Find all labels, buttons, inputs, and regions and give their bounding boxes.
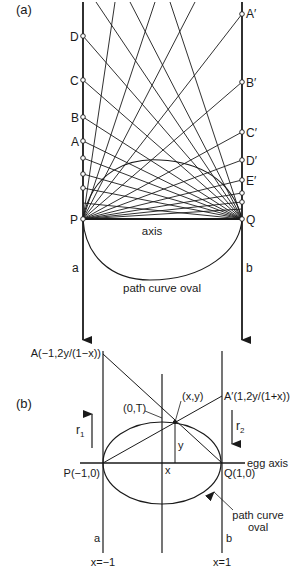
label-xy: (x,y) — [182, 390, 203, 402]
label-b: B — [71, 111, 79, 125]
panel-b-labels: (b) A(−1,2y/(1−x)) A′(1,2y/(1+x)) (0,T) … — [16, 347, 290, 568]
panel-b — [80, 351, 245, 553]
label-a-prime: A′ — [246, 7, 257, 21]
fan-lines-from-p — [83, 2, 242, 219]
label-q-b: Q(1,0) — [224, 467, 255, 479]
panel-b-tag: (b) — [16, 396, 32, 411]
label-y: y — [178, 439, 184, 451]
label-0t: (0,T) — [123, 402, 146, 414]
label-q: Q — [246, 213, 255, 227]
line-a-label: a — [72, 261, 79, 275]
x-right-label: x=1 — [213, 556, 231, 568]
diagram-canvas: (a) D C B A A′ B′ C′ D′ E′ P Q axis a b … — [0, 0, 291, 572]
fan-lines-from-q — [83, 2, 242, 219]
label-b-prime: B′ — [246, 76, 257, 90]
leader-xy — [175, 401, 181, 422]
label-a-point: A — [71, 135, 79, 149]
panel-a-labels: (a) D C B A A′ B′ C′ D′ E′ P Q axis a b … — [16, 2, 258, 294]
panel-a-tag: (a) — [16, 2, 32, 17]
label-c-prime: C′ — [246, 126, 258, 140]
label-x: x — [165, 464, 171, 476]
oval-label: path curve oval — [123, 282, 201, 294]
label-d-prime: D′ — [246, 154, 258, 168]
label-c: C — [70, 74, 79, 88]
axis-label: axis — [142, 225, 163, 237]
line-a-b-label: a — [94, 532, 101, 544]
label-p: P — [70, 213, 78, 227]
label-point-a: A(−1,2y/(1−x)) — [31, 347, 101, 359]
xy-point-dot — [173, 420, 176, 423]
label-point-a-prime: A′(1,2y/(1+x)) — [224, 390, 290, 402]
line-b-b-label: b — [226, 532, 232, 544]
label-d: D — [70, 30, 79, 44]
line-b-label: b — [246, 261, 253, 275]
leader-oval — [214, 492, 233, 510]
lower-path-curve-oval — [83, 219, 242, 280]
leader-0t — [145, 411, 162, 418]
label-r1: r1 — [76, 423, 85, 439]
label-p-b: P(−1,0) — [64, 467, 100, 479]
label-r2: r2 — [236, 419, 245, 435]
oval-label-line2: oval — [248, 521, 268, 533]
oval-label-line1: path curve — [232, 509, 283, 521]
label-e-prime: E′ — [246, 174, 257, 188]
x-left-label: x=−1 — [91, 556, 115, 568]
